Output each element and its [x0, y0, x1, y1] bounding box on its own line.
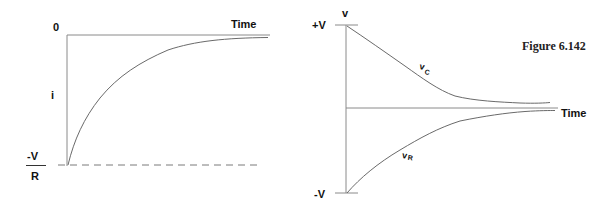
vr-curve [347, 111, 555, 194]
left-zero-label: 0 [53, 21, 59, 33]
left-minus-v-label: -V [27, 150, 39, 162]
vr-label: v R [402, 150, 414, 161]
figure-canvas: 0 Time i -V R v +V -V Time v C v R Figur… [0, 0, 613, 207]
left-time-label: Time [231, 18, 256, 30]
minus-v-label: -V [314, 188, 326, 200]
svg-text:R: R [407, 154, 413, 162]
vc-label: v C [418, 61, 432, 76]
right-v-axis-label: v [342, 7, 349, 19]
plus-v-label: +V [312, 19, 326, 31]
vc-curve [347, 26, 550, 103]
right-time-label: Time [561, 107, 586, 119]
left-r-label: R [31, 170, 39, 182]
current-curve [68, 38, 268, 166]
svg-text:C: C [424, 68, 430, 76]
current-plot: 0 Time i -V R [26, 18, 270, 182]
left-i-label: i [51, 89, 54, 101]
voltage-plot: v +V -V Time v C v R [312, 7, 586, 200]
figure-caption: Figure 6.142 [522, 39, 586, 53]
